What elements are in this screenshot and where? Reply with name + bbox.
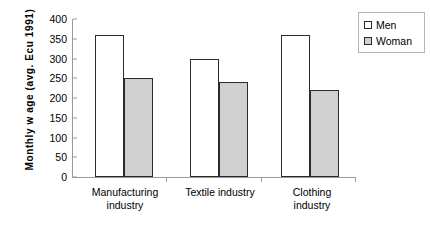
legend-label-woman: Woman — [376, 35, 412, 47]
category-separator — [166, 177, 167, 182]
y-axis-tick-label: 300 — [0, 53, 73, 65]
legend-swatch-men-icon — [364, 21, 372, 29]
legend-swatch-woman-icon — [364, 37, 372, 45]
category-separator — [355, 177, 356, 182]
y-axis-tick-label: 150 — [0, 112, 73, 124]
y-axis-tick-label: 200 — [0, 92, 73, 104]
x-axis-label-2: Textile industry — [170, 186, 270, 199]
plot-area: 400350300250200150100500 — [72, 19, 355, 177]
y-axis-tick-label: 400 — [0, 13, 73, 25]
bar-woman-group-2 — [219, 82, 248, 177]
y-axis-tick-label: 350 — [0, 33, 73, 45]
chart-legend: Men Woman — [358, 12, 425, 53]
bar-chart: Monthly w age (avg. Ecu 1991) 4003503002… — [0, 0, 430, 232]
y-axis-tick-mark — [73, 38, 77, 39]
x-axis-line — [72, 177, 356, 178]
y-axis-tick-mark — [73, 137, 77, 138]
y-axis-tick-mark — [73, 117, 77, 118]
bar-men-group-3 — [281, 35, 310, 177]
legend-item-woman: Woman — [364, 33, 424, 49]
legend-label-men: Men — [376, 19, 396, 31]
bar-woman-group-1 — [124, 78, 153, 177]
y-axis-tick-mark — [73, 98, 77, 99]
x-axis-label-1: Manufacturing industry — [75, 186, 175, 212]
y-axis-tick-label: 250 — [0, 72, 73, 84]
legend-item-men: Men — [364, 17, 424, 33]
y-axis-tick-label: 0 — [0, 171, 73, 183]
bar-woman-group-3 — [310, 90, 339, 177]
y-axis-tick-mark — [73, 58, 77, 59]
y-axis-tick-mark — [73, 157, 77, 158]
y-axis-tick-label: 50 — [0, 151, 73, 163]
bar-men-group-1 — [95, 35, 124, 177]
y-axis-tick-mark — [73, 78, 77, 79]
x-axis-label-3: Clothing industry — [262, 186, 362, 212]
bar-men-group-2 — [190, 59, 219, 178]
y-axis-tick-mark — [73, 19, 77, 20]
y-axis-tick-label: 100 — [0, 132, 73, 144]
category-separator — [261, 177, 262, 182]
